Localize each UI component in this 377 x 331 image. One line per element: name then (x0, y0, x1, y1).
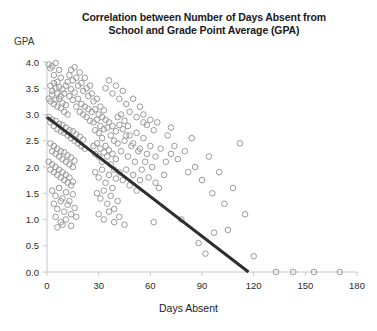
data-point (67, 93, 73, 99)
data-point (151, 127, 157, 133)
data-point (237, 141, 243, 147)
data-point (53, 193, 59, 199)
data-point (137, 177, 143, 183)
x-tick-label: 30 (93, 280, 104, 291)
data-point (94, 190, 100, 196)
data-point (113, 83, 119, 89)
data-point (216, 169, 222, 175)
data-point (61, 150, 67, 156)
data-point (132, 159, 138, 165)
data-point (70, 97, 76, 103)
data-point (58, 75, 64, 81)
data-point (175, 156, 181, 162)
data-point (123, 167, 129, 173)
y-tick-label: 2.5 (26, 135, 39, 146)
data-point (225, 227, 231, 233)
data-point (192, 164, 198, 170)
data-point (134, 114, 140, 120)
data-point (163, 159, 169, 165)
data-point (123, 101, 129, 107)
data-point (101, 217, 107, 223)
data-point (106, 172, 112, 178)
y-tick-label: 0.5 (26, 240, 39, 251)
data-point (172, 143, 178, 149)
x-tick-label: 180 (349, 280, 365, 291)
data-point (110, 185, 116, 191)
data-point (168, 151, 174, 157)
data-point (73, 214, 79, 220)
data-point (185, 169, 191, 175)
data-point (115, 198, 121, 204)
data-point (206, 154, 212, 160)
data-point (118, 148, 124, 154)
data-point (230, 185, 236, 191)
data-point (68, 223, 74, 229)
data-point (68, 87, 74, 93)
data-point (156, 185, 162, 191)
x-tick-label: 120 (246, 280, 262, 291)
data-point (127, 133, 133, 139)
data-point (153, 154, 159, 160)
data-point (108, 193, 114, 199)
data-point (149, 164, 155, 170)
data-point (103, 180, 109, 186)
data-point (98, 104, 104, 110)
data-point (98, 123, 104, 129)
y-tick-label: 4.0 (26, 57, 39, 68)
data-point (158, 146, 164, 152)
data-point (103, 85, 109, 91)
data-point (106, 147, 112, 153)
data-point (222, 201, 228, 207)
data-point (130, 172, 136, 178)
data-point (70, 129, 76, 135)
data-point (199, 177, 205, 183)
data-point (210, 190, 216, 196)
data-point (72, 90, 78, 96)
x-tick-label: 90 (197, 280, 208, 291)
data-point (251, 253, 257, 259)
data-point (168, 125, 174, 131)
x-axis-label: Days Absent (0, 302, 377, 314)
data-point (82, 75, 88, 81)
data-point (92, 169, 98, 175)
data-point (110, 91, 116, 97)
data-point (106, 209, 112, 215)
data-point (87, 118, 93, 124)
data-point (113, 129, 119, 135)
data-point (49, 92, 55, 98)
data-point (161, 172, 167, 178)
data-point (165, 133, 171, 139)
x-tick-label: 0 (44, 280, 49, 291)
data-point (98, 196, 104, 202)
data-point (56, 185, 62, 191)
y-tick-label: 1.0 (26, 214, 39, 225)
data-point (72, 158, 78, 164)
data-point (141, 112, 147, 118)
data-point (151, 219, 157, 225)
data-point (153, 180, 159, 186)
data-point (130, 96, 136, 102)
scatter-chart: Correlation between Number of Days Absen… (0, 0, 377, 331)
data-point (113, 176, 119, 182)
data-point (148, 117, 154, 123)
data-point (63, 217, 69, 223)
data-point (144, 151, 150, 157)
y-tick-label: 0.0 (26, 267, 39, 278)
data-point (203, 251, 209, 257)
data-point (61, 209, 67, 215)
data-point (125, 123, 131, 129)
data-point (120, 88, 126, 94)
data-point (110, 151, 116, 157)
data-point (104, 201, 110, 207)
data-point (154, 120, 160, 126)
data-point (96, 175, 102, 181)
data-point (108, 133, 114, 139)
data-point (53, 214, 59, 220)
data-point (111, 219, 117, 225)
data-point (113, 156, 119, 162)
data-point (117, 96, 123, 102)
data-point (55, 206, 61, 212)
data-point (117, 214, 123, 220)
data-point (99, 167, 105, 173)
y-tick-label: 3.5 (26, 83, 39, 94)
